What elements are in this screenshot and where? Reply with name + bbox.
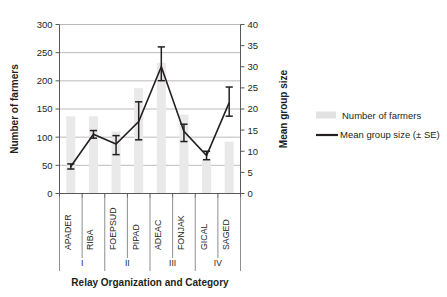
bar-apader <box>66 116 75 193</box>
y-axis-title-right: Mean group size <box>278 69 289 148</box>
bar-saged <box>225 142 234 194</box>
group-label-iv: IV <box>214 258 222 268</box>
bar-adeac <box>157 63 166 194</box>
y-axis-title-left: Number of farmers <box>9 64 20 154</box>
legend-label-mean-group-size: Mean group size (± SE) <box>340 129 440 140</box>
y-tick-label-right: 40 <box>248 19 259 30</box>
bar-riba <box>89 116 98 193</box>
y-tick-label-right: 5 <box>248 167 253 178</box>
x-category-label-foepsud: FOEPSUD <box>108 207 118 250</box>
x-category-label-saged: SAGED <box>221 219 231 250</box>
y-tick-label-right: 35 <box>248 40 259 51</box>
y-tick-label-right: 15 <box>248 125 259 136</box>
chart-canvas: 0501001502002503000510152025303540APADER… <box>0 0 447 297</box>
y-tick-label-right: 0 <box>248 188 253 199</box>
legend-label-number-of-farmers: Number of farmers <box>342 110 421 121</box>
group-label-ii: II <box>125 258 130 268</box>
y-tick-label-right: 25 <box>248 82 259 93</box>
bar-gical <box>202 160 211 194</box>
group-label-i: I <box>81 258 83 268</box>
y-tick-label-left: 150 <box>37 103 53 114</box>
y-tick-label-left: 200 <box>37 75 53 86</box>
group-label-iii: III <box>169 258 176 268</box>
x-category-label-adeac: ADEAC <box>153 219 163 250</box>
y-tick-label-left: 0 <box>47 188 52 199</box>
x-category-label-gical: GICAL <box>199 223 209 250</box>
y-tick-label-left: 300 <box>37 19 53 30</box>
y-tick-label-left: 250 <box>37 47 53 58</box>
y-tick-label-right: 20 <box>248 103 259 114</box>
y-tick-label-left: 50 <box>42 160 53 171</box>
x-axis-title: Relay Organization and Category <box>71 277 229 288</box>
y-tick-label-left: 100 <box>37 132 53 143</box>
y-tick-label-right: 10 <box>248 146 259 157</box>
figure-container: 0501001502002503000510152025303540APADER… <box>0 0 447 297</box>
x-category-label-pipad: PIPAD <box>131 224 141 250</box>
x-category-label-apader: APADER <box>63 214 73 250</box>
x-category-label-fonjak: FONJAK <box>176 215 186 250</box>
x-category-label-riba: RIBA <box>85 229 95 250</box>
y-tick-label-right: 30 <box>248 61 259 72</box>
legend-swatch-number-of-farmers <box>316 112 336 119</box>
